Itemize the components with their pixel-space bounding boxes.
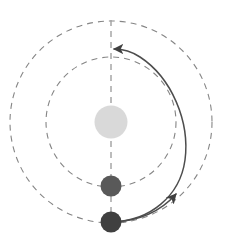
central-body	[95, 106, 128, 139]
orbit-diagram-canvas	[0, 0, 226, 240]
outer-orbit-body	[101, 212, 122, 233]
inner-orbit-body	[101, 176, 122, 197]
orbital-diagram	[0, 0, 226, 240]
